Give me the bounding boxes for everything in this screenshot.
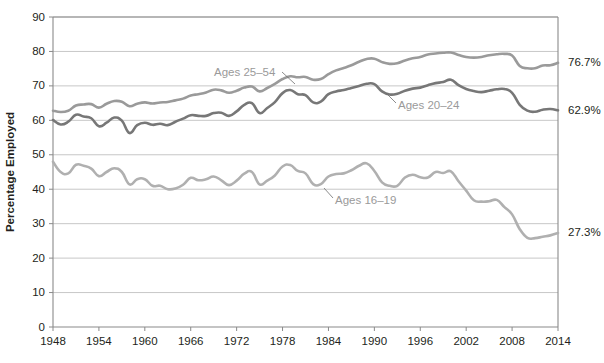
x-tick-label-1960: 1960 bbox=[132, 335, 158, 347]
x-tick-label-2008: 2008 bbox=[499, 335, 525, 347]
y-tick-label-80: 80 bbox=[32, 45, 45, 57]
x-tick-labels-group: 1948195419601966197219781984199019962002… bbox=[40, 335, 571, 347]
end-label-ages-25-54: 76.7% bbox=[568, 56, 601, 68]
x-tick-label-1972: 1972 bbox=[224, 335, 250, 347]
chart-canvas: 0102030405060708090 19481954196019661972… bbox=[0, 0, 604, 363]
y-tick-label-40: 40 bbox=[32, 183, 45, 195]
x-tick-label-2014: 2014 bbox=[545, 335, 571, 347]
end-label-ages-20-24: 62.9% bbox=[568, 104, 601, 116]
x-tick-label-1954: 1954 bbox=[86, 335, 112, 347]
y-tick-label-90: 90 bbox=[32, 11, 45, 23]
y-tick-label-0: 0 bbox=[39, 321, 45, 333]
series-label-ages-25-54: Ages 25–54 bbox=[214, 66, 276, 78]
end-label-ages-16-19: 27.3% bbox=[568, 226, 601, 238]
end-labels-group: 76.7%62.9%27.3% bbox=[568, 56, 601, 238]
gridlines-group bbox=[53, 17, 558, 293]
series-label-ages-16-19: Ages 16–19 bbox=[335, 194, 396, 206]
axes-group bbox=[49, 17, 558, 331]
employment-rate-line-chart: 0102030405060708090 19481954196019661972… bbox=[0, 0, 604, 363]
x-tick-label-1978: 1978 bbox=[270, 335, 296, 347]
series-label-ages-20-24: Ages 20–24 bbox=[398, 99, 460, 111]
x-tick-label-1996: 1996 bbox=[407, 335, 433, 347]
y-tick-label-20: 20 bbox=[32, 252, 45, 264]
series-line-ages-16-19 bbox=[53, 162, 558, 239]
y-tick-labels-group: 0102030405060708090 bbox=[32, 11, 45, 333]
y-tick-label-10: 10 bbox=[32, 286, 45, 298]
y-tick-label-30: 30 bbox=[32, 217, 45, 229]
y-axis-title: Percentage Employed bbox=[4, 112, 16, 232]
x-tick-label-1984: 1984 bbox=[316, 335, 342, 347]
series-group bbox=[53, 52, 558, 239]
y-tick-label-50: 50 bbox=[32, 148, 45, 160]
y-tick-label-60: 60 bbox=[32, 114, 45, 126]
x-tick-label-2002: 2002 bbox=[453, 335, 479, 347]
y-tick-label-70: 70 bbox=[32, 79, 45, 91]
x-tick-label-1948: 1948 bbox=[40, 335, 66, 347]
series-line-ages-25-54 bbox=[53, 52, 558, 112]
x-tick-label-1966: 1966 bbox=[178, 335, 204, 347]
x-tick-label-1990: 1990 bbox=[362, 335, 388, 347]
